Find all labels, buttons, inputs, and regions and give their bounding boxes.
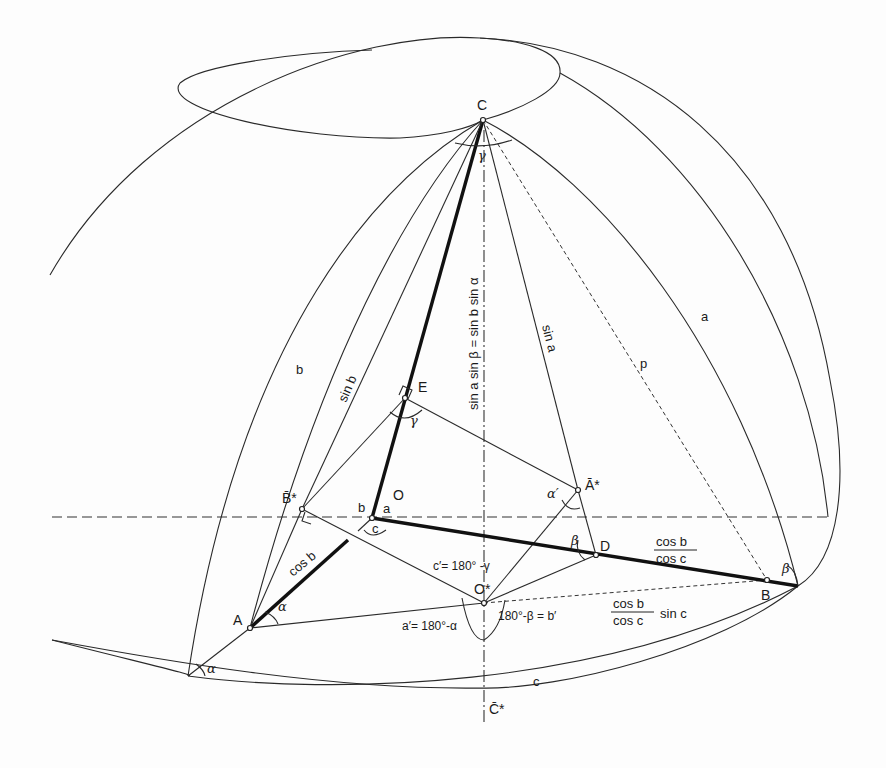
point-Bstar [300, 507, 305, 512]
right-angle-Bstar [302, 512, 311, 524]
label-frac1-num: cos b [656, 534, 687, 549]
spherical-triangle-diagram: C E O B̄* Ā* D O* A B C̄* b a c sin b si… [0, 0, 886, 768]
point-E [403, 396, 408, 401]
radius-OB [372, 518, 798, 586]
label-gamma-E: γ [410, 413, 418, 428]
point-A [248, 626, 253, 631]
sphere-outline [50, 37, 840, 688]
label-c-prime: c′= 180° -γ [433, 559, 490, 573]
label-frac2-suffix: sin c [660, 606, 687, 621]
label-O: O [393, 487, 404, 503]
label-beta-D: β [570, 533, 579, 548]
label-center-c: c [372, 521, 379, 536]
label-a-prime: a′= 180°-α [402, 619, 457, 633]
arc-outer-right [560, 73, 828, 517]
label-frac2-den: cos c [613, 613, 644, 628]
label-D: D [600, 538, 610, 554]
label-frac2-num: cos b [613, 596, 644, 611]
label-b-prime: 180°-β = b′ [498, 609, 557, 623]
label-C: C [477, 97, 487, 113]
label-center-b: b [358, 500, 365, 515]
point-Ostar [482, 601, 487, 606]
point-Astar [576, 488, 581, 493]
angle-arc-alpha-prime [562, 500, 580, 509]
label-center-a: a [383, 501, 391, 516]
segment-cos-b [250, 540, 348, 628]
label-A: A [233, 612, 243, 628]
point-B [765, 578, 770, 583]
label-cos-b: cos b [285, 548, 318, 579]
label-alpha-bottom: α [207, 661, 216, 676]
label-beta-B: β [781, 561, 790, 576]
label-Ostar: O* [474, 581, 491, 597]
polar-circle [178, 38, 560, 138]
label-sin-b: sin b [335, 373, 360, 404]
segment-Astar-Ostar [484, 490, 578, 603]
label-arc-c: c [533, 674, 540, 689]
label-alpha-prime: α′ [547, 486, 559, 501]
label-vertical-equation: sin a sin β = sin b sin α [466, 277, 481, 410]
label-arc-b: b [296, 362, 303, 377]
segment-D-Ostar [484, 555, 596, 603]
label-frac1-den: cos c [656, 551, 687, 566]
label-alpha-A: α [278, 599, 287, 614]
arc-c [52, 586, 798, 685]
arc-a [483, 120, 798, 586]
label-B: B [761, 587, 770, 603]
diagram-canvas: C E O B̄* Ā* D O* A B C̄* b a c sin b si… [0, 0, 886, 768]
point-C [481, 118, 486, 123]
label-p: p [640, 356, 647, 371]
label-Bstar: B̄* [282, 490, 297, 506]
point-O [370, 516, 375, 521]
segment-p [483, 120, 767, 580]
segment-Astar-D [578, 490, 596, 555]
label-E: E [418, 379, 427, 395]
segment-E-Astar [405, 398, 578, 490]
point-D [594, 553, 599, 558]
label-Cstar: C̄* [489, 701, 505, 717]
label-Astar: Ā* [585, 477, 600, 493]
segment-A-corner [188, 628, 250, 676]
segment-sin-a [483, 120, 578, 490]
label-arc-a: a [701, 309, 709, 324]
label-gamma-C: γ [478, 148, 486, 163]
